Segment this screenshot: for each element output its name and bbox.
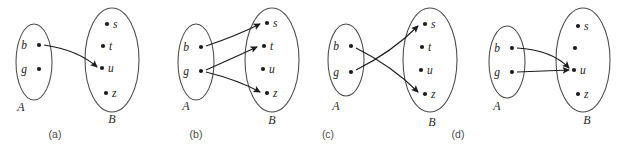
element-label-z-a: z xyxy=(111,87,117,99)
element-label-g-d: g xyxy=(494,66,500,79)
element-label-g-a: g xyxy=(21,63,27,76)
set-domain-a: bgA xyxy=(16,24,52,114)
element-label-z-d: z xyxy=(583,88,589,100)
element-dot-z-b[interactable] xyxy=(265,91,269,95)
element-label-t-b: t xyxy=(270,40,274,52)
element-label-b-a: b xyxy=(21,39,27,51)
element-dot-b-c[interactable] xyxy=(349,44,353,48)
set-boundary-domain-c xyxy=(328,24,364,96)
set-boundary-domain-a xyxy=(16,24,52,100)
set-boundary-codomain-c xyxy=(403,8,457,112)
element-label-u-b: u xyxy=(269,63,275,75)
set-boundary-codomain-b xyxy=(245,8,299,112)
set-codomain-d: suzB xyxy=(556,8,610,127)
element-dot-g-a[interactable] xyxy=(37,67,41,71)
element-dot-s-b[interactable] xyxy=(265,21,269,25)
element-dot-u-a[interactable] xyxy=(100,66,104,70)
element-label-s-a: s xyxy=(113,18,118,30)
element-label-u-d: u xyxy=(580,64,586,76)
element-label-g-b: g xyxy=(183,65,189,78)
element-label-b-c: b xyxy=(333,40,339,52)
set-label-A-a: A xyxy=(16,100,25,114)
element-dot-t-b[interactable] xyxy=(262,44,266,48)
element-dot-unlabeled-1-d[interactable] xyxy=(573,46,577,50)
element-label-t-a: t xyxy=(109,40,113,52)
element-dot-b-b[interactable] xyxy=(199,45,203,49)
element-dot-t-c[interactable] xyxy=(420,45,424,49)
set-boundary-domain-b xyxy=(178,24,214,100)
set-domain-d: bgA xyxy=(489,26,525,113)
element-dot-s-c[interactable] xyxy=(423,22,427,26)
set-label-B-d: B xyxy=(583,113,591,127)
element-label-b-b: b xyxy=(183,41,189,53)
element-dot-s-a[interactable] xyxy=(105,22,109,26)
element-dot-b-a[interactable] xyxy=(37,43,41,47)
element-label-s-c: s xyxy=(431,18,436,30)
element-label-s-d: s xyxy=(584,20,589,32)
element-label-g-c: g xyxy=(333,66,339,79)
element-dot-u-d[interactable] xyxy=(572,68,576,72)
set-boundary-domain-d xyxy=(489,26,525,98)
arrow-g-to-z-b xyxy=(206,72,260,92)
panel-b: bgAstuzB(b) xyxy=(178,8,299,140)
set-codomain-b: stuzB xyxy=(245,8,299,127)
panel-d: bgAsuzB(d) xyxy=(452,8,610,140)
panel-caption-d: (d) xyxy=(452,128,465,140)
set-label-B-c: B xyxy=(428,115,436,129)
element-dot-u-c[interactable] xyxy=(419,68,423,72)
element-dot-g-d[interactable] xyxy=(510,70,514,74)
figure-canvas: bgAstuzB(a)bgAstuzB(b)bgAstuzB(c)bgAsuzB… xyxy=(0,0,620,151)
panels-layer: bgAstuzB(a)bgAstuzB(b)bgAstuzB(c)bgAsuzB… xyxy=(16,8,610,140)
element-label-z-b: z xyxy=(272,87,278,99)
set-mapping-figure: bgAstuzB(a)bgAstuzB(b)bgAstuzB(c)bgAsuzB… xyxy=(0,0,620,151)
panel-a: bgAstuzB(a) xyxy=(16,8,139,140)
set-label-B-b: B xyxy=(268,113,276,127)
element-label-z-c: z xyxy=(430,88,436,100)
arrow-b-to-s-b xyxy=(206,24,260,46)
element-dot-t-a[interactable] xyxy=(101,44,105,48)
element-dot-z-c[interactable] xyxy=(423,92,427,96)
panel-caption-c: (c) xyxy=(322,128,334,140)
set-codomain-c: stuzB xyxy=(403,8,457,129)
set-boundary-codomain-d xyxy=(556,8,610,112)
set-label-A-d: A xyxy=(492,99,501,113)
panel-c: bgAstuzB(c) xyxy=(322,8,457,140)
element-dot-s-d[interactable] xyxy=(576,24,580,28)
set-codomain-a: stuzB xyxy=(85,8,139,126)
arrow-b-to-z-c xyxy=(356,48,418,92)
element-dot-u-b[interactable] xyxy=(261,67,265,71)
element-dot-b-d[interactable] xyxy=(510,46,514,50)
element-dot-g-c[interactable] xyxy=(349,70,353,74)
element-label-t-c: t xyxy=(428,41,432,53)
set-label-A-b: A xyxy=(181,99,190,113)
element-dot-z-d[interactable] xyxy=(576,92,580,96)
panel-caption-b: (b) xyxy=(190,128,203,140)
panel-caption-a: (a) xyxy=(49,128,62,140)
element-dot-z-a[interactable] xyxy=(104,91,108,95)
element-label-s-b: s xyxy=(273,17,278,29)
element-label-b-d: b xyxy=(494,42,500,54)
set-label-B-a: B xyxy=(108,112,116,126)
arrow-g-to-s-c xyxy=(356,26,418,70)
arrows-c xyxy=(356,26,418,92)
element-label-u-c: u xyxy=(427,64,433,76)
set-label-A-c: A xyxy=(331,99,340,113)
element-label-u-a: u xyxy=(108,62,114,74)
element-dot-g-b[interactable] xyxy=(199,69,203,73)
